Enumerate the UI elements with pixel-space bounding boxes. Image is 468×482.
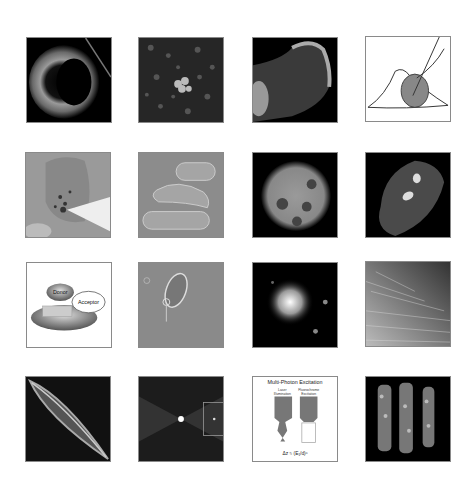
tile-fluorescence-speckle-cluster[interactable] <box>138 37 224 123</box>
3d-reconstruction-image <box>366 377 450 461</box>
tile-fluorescent-cell-speckled[interactable] <box>365 152 451 238</box>
tile-phase-contrast-organism[interactable] <box>138 262 224 348</box>
fluorescence-cell-image <box>27 38 111 122</box>
speckled-cell-image <box>366 153 450 237</box>
tile-fluorescence-cell-filopodia[interactable] <box>252 37 338 123</box>
multiphoton-title: Multi-Photon Excitation <box>268 379 323 385</box>
tile-3d-reconstruction-columns[interactable] <box>365 376 451 462</box>
tile-fibers-texture[interactable] <box>365 261 451 347</box>
tile-microinjection-cell[interactable] <box>25 152 111 238</box>
rod-cells-image <box>139 153 223 237</box>
cell-drawing <box>366 37 450 121</box>
svg-text:Excitation: Excitation <box>301 392 316 396</box>
tile-fret-diagram[interactable]: Donor Acceptor <box>26 262 112 348</box>
tile-point-spread-function[interactable] <box>138 376 224 462</box>
tile-diatom-elongated[interactable] <box>25 376 111 462</box>
donor-label: Donor <box>53 289 68 295</box>
psf-image <box>139 377 223 461</box>
tile-fluorescent-bright-spot[interactable] <box>252 262 338 348</box>
tile-cell-drawing-with-pipette[interactable] <box>365 36 451 122</box>
tile-dic-rod-cells[interactable] <box>138 152 224 238</box>
multiphoton-formula: Δz ≈ (E₁/d)ⁿ <box>282 451 307 456</box>
acceptor-label: Acceptor <box>78 299 99 305</box>
tile-fluorescence-cell-ring[interactable] <box>26 37 112 123</box>
nucleus-image <box>253 153 337 237</box>
multiphoton-diagram: Multi-Photon Excitation Laser Illuminati… <box>253 377 337 461</box>
diatom-image <box>26 377 110 461</box>
svg-text:Illumination: Illumination <box>274 392 291 396</box>
fret-diagram: Donor Acceptor <box>27 263 111 347</box>
filopodia-image <box>253 38 337 122</box>
tile-fluorescent-nucleus[interactable] <box>252 152 338 238</box>
tile-multiphoton-diagram[interactable]: Multi-Photon Excitation Laser Illuminati… <box>252 376 338 462</box>
bright-spot-image <box>253 263 337 347</box>
phase-contrast-image <box>139 263 223 347</box>
speckle-image <box>139 38 223 122</box>
fibers-image <box>366 262 450 346</box>
microinjection-image <box>26 153 110 237</box>
